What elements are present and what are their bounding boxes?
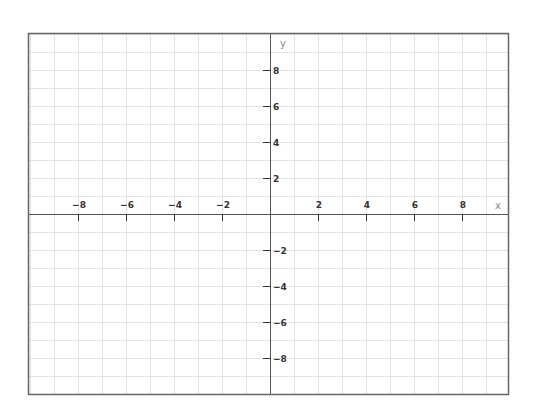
x-tick-label: −6 [120,200,134,210]
x-tick-label: 8 [460,200,466,210]
y-tick-label: −6 [273,318,287,328]
axes [28,33,508,394]
y-tick-label: −2 [273,246,287,256]
x-axis-label: x [495,200,501,211]
y-tick-label: 4 [273,138,279,148]
y-tick-label: 6 [273,102,279,112]
x-tick-label: 6 [412,200,418,210]
y-tick-label: 2 [273,174,279,184]
x-tick-label: −2 [216,200,230,210]
x-tick-label: 4 [364,200,370,210]
x-tick-label: −4 [168,200,182,210]
y-axis-label: y [280,38,286,49]
x-tick-label: −8 [72,200,86,210]
y-tick-label: −4 [273,282,287,292]
y-tick-label: 8 [273,66,279,76]
grid-lines [28,33,508,395]
x-tick-label: 2 [316,200,322,210]
y-tick-label: −8 [273,354,287,364]
coordinate-plane: −8−6−4−224688642−2−4−6−8 x y [0,0,533,417]
